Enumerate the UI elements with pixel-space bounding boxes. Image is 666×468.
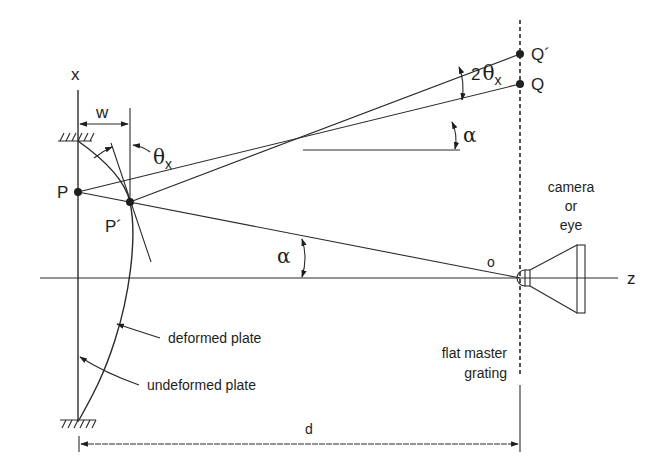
d-label: d <box>305 421 313 437</box>
camera-label-line3: eye <box>560 217 583 233</box>
undeformed-plate-pointer <box>80 357 139 385</box>
x-axis-label: x <box>71 65 80 84</box>
upper-alpha-label: α <box>463 123 477 147</box>
lower-alpha-label: α <box>277 244 291 268</box>
P-prime-label: P´ <box>105 217 122 236</box>
lower-alpha-arc-arrow <box>302 239 305 277</box>
origin-label: o <box>487 254 495 270</box>
P-label: P <box>57 183 68 202</box>
Q-prime-label: Q´ <box>531 45 550 64</box>
bottom-fixed-support-icon <box>60 420 96 428</box>
undeformed-plate-label: undeformed plate <box>147 377 256 393</box>
ray-P-to-origin <box>78 192 520 278</box>
upper-alpha-arc-arrow <box>452 122 456 149</box>
z-axis-label: z <box>627 269 636 288</box>
camera-label-line1: camera <box>548 179 595 195</box>
moire-optics-diagram: x w θx P P´ Q´ Q <box>0 0 666 468</box>
theta-pointer-arrow <box>133 145 150 152</box>
grating-label-line2: grating <box>464 365 507 381</box>
deformed-plate-label: deformed plate <box>168 330 262 346</box>
double-theta-x-label: 2θx <box>471 61 502 88</box>
w-label: w <box>95 103 109 122</box>
top-fixed-support-icon <box>58 133 94 141</box>
deformed-plate-pointer <box>117 324 160 338</box>
double-theta-arc-arrow <box>459 67 463 100</box>
theta-x-label: θx <box>153 145 172 172</box>
camera-icon <box>517 245 585 313</box>
camera-label-line2: or <box>565 198 578 214</box>
point-P-prime <box>126 198 134 206</box>
point-P <box>74 188 82 196</box>
Q-label: Q <box>531 75 544 94</box>
grating-label-line1: flat master <box>442 345 508 361</box>
slope-arc-arrow <box>94 147 112 158</box>
